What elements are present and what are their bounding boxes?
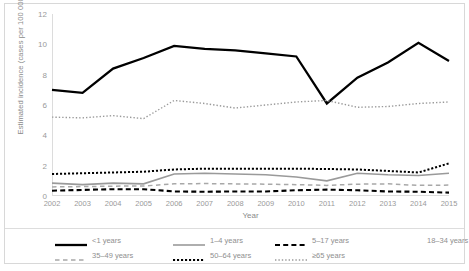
series-line--65-years: [52, 100, 449, 118]
x-tick-label: 2008: [227, 199, 244, 208]
legend-item[interactable]: 5–17 years: [275, 233, 349, 248]
x-tick-label: 2004: [105, 199, 122, 208]
legend-swatch: [55, 251, 87, 261]
x-tick-label: 2012: [349, 199, 366, 208]
x-tick-label: 2010: [288, 199, 305, 208]
x-tick-label: 2005: [135, 199, 152, 208]
series-line-5-17-years: [52, 189, 449, 192]
legend-label: 1–4 years: [210, 236, 243, 245]
x-tick-label: 2006: [166, 199, 183, 208]
x-tick-label: 2003: [74, 199, 91, 208]
series-line--1-years: [52, 43, 449, 104]
legend-item[interactable]: 50–64 years: [173, 248, 251, 263]
series-layer: [52, 14, 449, 196]
legend-label: 35–49 years: [92, 251, 133, 260]
legend-item[interactable]: 18–34 years: [390, 233, 468, 248]
series-line-1-4-years: [52, 173, 449, 184]
x-tick-label: 2014: [410, 199, 427, 208]
series-line-35-49-years: [52, 184, 449, 187]
y-tick-label: 8: [43, 70, 47, 79]
y-tick-label: 10: [38, 40, 47, 49]
legend-label: ≥65 years: [312, 251, 345, 260]
y-tick-label: 12: [38, 10, 47, 19]
y-tick-label: 2: [43, 161, 47, 170]
legend-divider: [5, 228, 464, 229]
x-tick-label: 2015: [441, 199, 458, 208]
legend-swatch: [275, 251, 307, 261]
x-axis-title: Year: [52, 211, 449, 220]
legend-item[interactable]: 35–49 years: [55, 248, 133, 263]
legend-swatch: [173, 251, 205, 261]
chart-legend: <1 years1–4 years5–17 years18–34 years 3…: [5, 232, 464, 266]
legend-swatch: [275, 236, 307, 246]
x-tick-label: 2007: [196, 199, 213, 208]
legend-item[interactable]: ≥65 years: [275, 248, 345, 263]
legend-item[interactable]: 1–4 years: [173, 233, 243, 248]
legend-label: 5–17 years: [312, 236, 349, 245]
legend-swatch: [390, 236, 422, 246]
legend-row-1: <1 years1–4 years5–17 years18–34 years: [5, 233, 464, 248]
legend-item[interactable]: <1 years: [55, 233, 121, 248]
legend-label: 18–34 years: [427, 236, 468, 245]
y-tick-label: 4: [43, 131, 47, 140]
x-tick-label: 2002: [44, 199, 61, 208]
legend-label: <1 years: [92, 236, 121, 245]
legend-row-2: 35–49 years50–64 years≥65 years: [5, 248, 464, 263]
legend-swatch: [55, 236, 87, 246]
x-tick-label: 2013: [380, 199, 397, 208]
y-axis-title: Estimated incidence (cases per 100 000): [16, 0, 25, 155]
series-line-50-64-years: [52, 163, 449, 174]
legend-swatch: [173, 236, 205, 246]
legend-label: 50–64 years: [210, 251, 251, 260]
x-tick-label: 2011: [319, 199, 335, 208]
plot-area: 0246810122002200320042005200620072008200…: [52, 14, 449, 196]
y-tick-label: 6: [43, 101, 47, 110]
x-tick-label: 2009: [257, 199, 274, 208]
chart-figure: Estimated incidence (cases per 100 000) …: [0, 0, 469, 271]
